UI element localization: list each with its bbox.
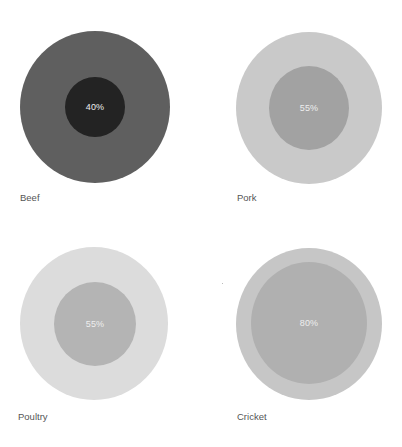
poultry-inner-circle: 55% (54, 282, 136, 366)
stray-dot (222, 283, 223, 284)
beef-percentage: 40% (86, 102, 105, 112)
beef-label: Beef (20, 192, 40, 203)
pork-label: Pork (237, 192, 257, 203)
poultry-label: Poultry (18, 411, 48, 422)
poultry-percentage: 55% (86, 319, 105, 329)
cricket-label: Cricket (237, 411, 267, 422)
pork-inner-circle: 55% (269, 66, 349, 150)
cricket-inner-circle: 80% (251, 262, 367, 384)
pork-percentage: 55% (300, 103, 319, 113)
cricket-percentage: 80% (300, 318, 319, 328)
beef-inner-circle: 40% (65, 77, 125, 137)
